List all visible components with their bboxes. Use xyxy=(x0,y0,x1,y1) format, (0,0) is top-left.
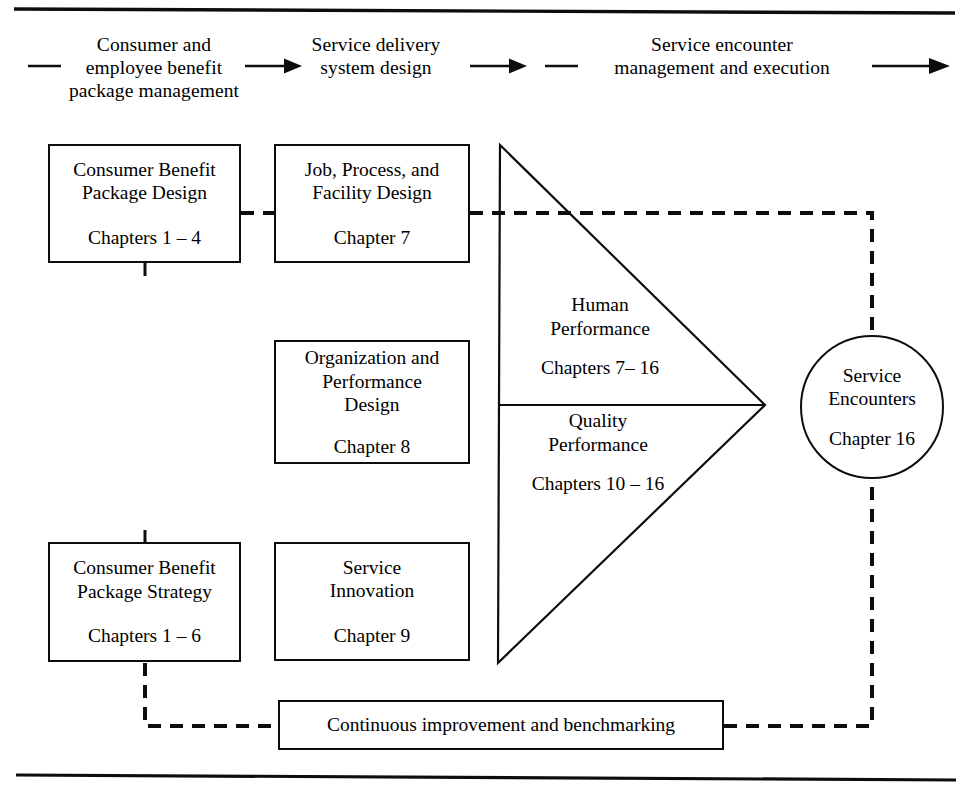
triangle-section-chapters: Chapters 7– 16 xyxy=(505,356,695,380)
diagram-canvas: Consumer and employee benefit package ma… xyxy=(0,0,967,790)
flow-arrow-3-icon xyxy=(872,58,950,74)
triangle-section-name: Human Performance xyxy=(505,293,695,340)
node-service-encounters[interactable]: Service Encounters Chapter 16 xyxy=(800,335,944,479)
node-title: Service Encounters xyxy=(828,364,916,411)
node-title: Service Innovation xyxy=(330,556,414,603)
dashed-connector-strategy-to-continuous xyxy=(145,663,278,726)
node-title: Job, Process, and Facility Design xyxy=(305,158,439,205)
triangle-section-chapters: Chapters 10 – 16 xyxy=(503,472,693,496)
performance-triangle xyxy=(498,145,765,663)
node-job-process-facility-design[interactable]: Job, Process, and Facility Design Chapte… xyxy=(274,144,470,263)
node-label: Continuous improvement and benchmarking xyxy=(327,714,675,736)
node-chapters: Chapter 9 xyxy=(334,624,410,648)
triangle-upper-human-performance[interactable]: Human Performance Chapters 7– 16 xyxy=(505,293,695,380)
top-rule xyxy=(14,9,955,13)
node-chapters: Chapters 1 – 6 xyxy=(88,624,201,648)
node-chapters: Chapters 1 – 4 xyxy=(88,226,201,250)
node-organization-performance-design[interactable]: Organization and Performance Design Chap… xyxy=(274,340,470,464)
flow-stage-label-2: Service delivery system design xyxy=(296,33,456,79)
node-chapters: Chapter 16 xyxy=(829,427,915,451)
bottom-rule xyxy=(16,775,956,780)
node-service-innovation[interactable]: Service Innovation Chapter 9 xyxy=(274,542,470,661)
flow-stage-label-1: Consumer and employee benefit package ma… xyxy=(62,33,246,102)
node-chapters: Chapter 7 xyxy=(334,226,410,250)
dashed-connector-continuous-to-encounters xyxy=(724,480,872,726)
triangle-lower-quality-performance[interactable]: Quality Performance Chapters 10 – 16 xyxy=(503,409,693,496)
triangle-section-name: Quality Performance xyxy=(503,409,693,456)
node-chapters: Chapter 8 xyxy=(334,435,410,459)
node-title: Consumer Benefit Package Design xyxy=(73,158,215,205)
node-consumer-benefit-package-strategy[interactable]: Consumer Benefit Package Strategy Chapte… xyxy=(48,542,241,662)
flow-stage-label-3: Service encounter management and executi… xyxy=(592,33,852,79)
node-continuous-improvement-benchmarking[interactable]: Continuous improvement and benchmarking xyxy=(278,700,724,750)
flow-arrow-1-icon xyxy=(245,59,302,74)
node-title: Consumer Benefit Package Strategy xyxy=(73,556,215,603)
flow-arrow-2-icon xyxy=(470,59,527,74)
node-title: Organization and Performance Design xyxy=(305,346,439,417)
node-consumer-benefit-package-design[interactable]: Consumer Benefit Package Design Chapters… xyxy=(48,144,241,263)
